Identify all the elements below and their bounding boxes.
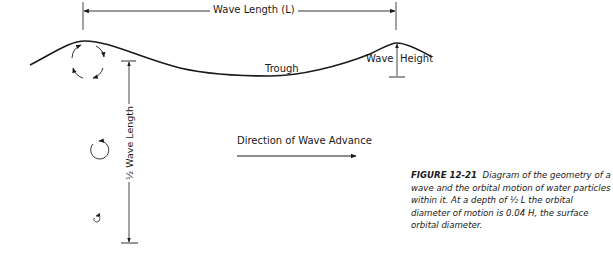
mid-depth-orbit-icon <box>91 141 109 159</box>
wave-height-label-right: Height <box>400 53 433 64</box>
deep-orbit-icon <box>94 216 100 222</box>
wave-length-label: Wave Length (L) <box>210 4 298 15</box>
wave-height-label-left: Wave <box>366 53 393 64</box>
direction-label: Direction of Wave Advance <box>237 135 372 146</box>
surface-orbit-icon <box>72 45 104 78</box>
figure-caption: FIGURE 12-21 Diagram of the geometry of … <box>411 169 611 232</box>
trough-label: Trough <box>265 63 299 74</box>
half-wave-length-label: ½ Wave Length <box>124 104 135 182</box>
figure-id: FIGURE 12-21 <box>411 170 477 180</box>
